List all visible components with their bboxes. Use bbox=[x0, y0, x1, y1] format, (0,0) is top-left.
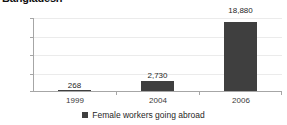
legend-item-label: Female workers going abroad bbox=[92, 110, 204, 120]
x-axis-label-2004: 2004 bbox=[149, 96, 167, 105]
x-axis-label-1999: 1999 bbox=[66, 96, 84, 105]
y-tick-0 bbox=[30, 91, 33, 92]
bar-chart: Bangladesh 20,000 15,000 10,000 5,000 0 … bbox=[0, 0, 287, 125]
x-axis-line bbox=[33, 91, 282, 92]
bar-2006 bbox=[224, 22, 257, 91]
gridline-20000 bbox=[33, 18, 282, 19]
bar-label-2004: 2,730 bbox=[147, 71, 167, 80]
chart-legend: Female workers going abroad bbox=[0, 110, 287, 120]
square-marker-icon bbox=[82, 112, 88, 118]
x-tick-1 bbox=[116, 92, 117, 95]
y-tick-15000 bbox=[30, 37, 33, 38]
x-tick-2 bbox=[199, 92, 200, 95]
bar-label-1999: 268 bbox=[68, 81, 81, 90]
y-tick-5000 bbox=[30, 74, 33, 75]
chart-title: Bangladesh bbox=[2, 0, 62, 4]
y-axis-line bbox=[33, 18, 34, 92]
bar-2004 bbox=[141, 81, 174, 91]
x-tick-3 bbox=[281, 92, 282, 95]
bar-label-2006: 18,880 bbox=[228, 6, 252, 15]
y-tick-10000 bbox=[30, 55, 33, 56]
bar-1999 bbox=[58, 90, 91, 91]
x-axis-label-2006: 2006 bbox=[232, 96, 250, 105]
y-tick-20000 bbox=[30, 18, 33, 19]
plot-area: 268 2,730 18,880 bbox=[33, 18, 282, 92]
